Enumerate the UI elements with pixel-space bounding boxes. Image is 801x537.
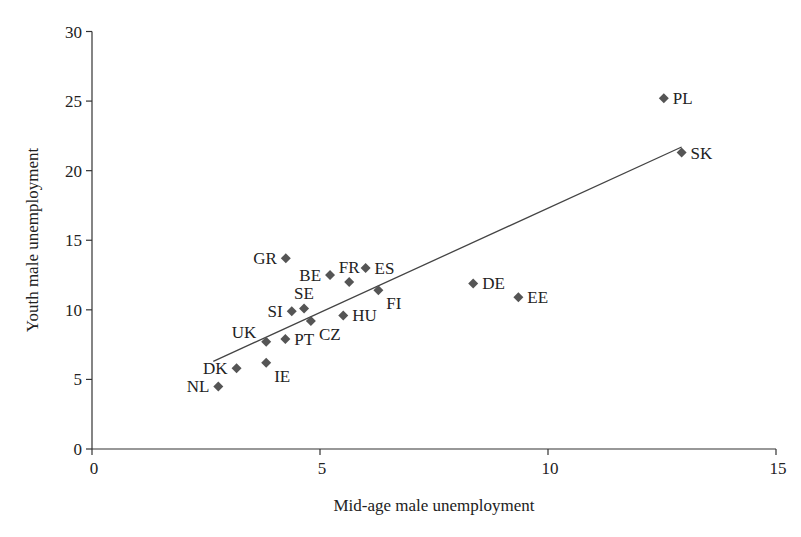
point-label: PL [673, 89, 693, 108]
y-tick-label: 25 [65, 92, 82, 111]
diamond-marker-icon [281, 253, 291, 263]
point-label: IE [274, 367, 290, 386]
data-point: PT [280, 330, 314, 349]
y-tick-label: 20 [65, 162, 82, 181]
x-ticks: 051015 [90, 449, 787, 478]
diamond-marker-icon [361, 263, 371, 273]
diamond-marker-icon [325, 270, 335, 280]
data-point: BE [299, 266, 335, 285]
data-point: ES [361, 259, 395, 278]
x-tick-label: 10 [542, 459, 559, 478]
point-label: BE [299, 266, 321, 285]
point-label: PT [294, 330, 314, 349]
data-point: HU [338, 306, 377, 325]
point-label: GR [253, 249, 277, 268]
x-axis-title: Mid-age male unemployment [333, 496, 534, 515]
data-point: SE [294, 284, 314, 313]
diamond-marker-icon [261, 358, 271, 368]
scatter-chart: 051015202530 051015 NLDKIEUKPTGRSISECZBE… [0, 0, 801, 537]
data-point: GR [253, 249, 291, 268]
point-label: DE [482, 274, 505, 293]
data-point: IE [261, 358, 290, 386]
data-points: NLDKIEUKPTGRSISECZBEHUFRESFIDEEESKPL [187, 89, 713, 396]
diamond-marker-icon [299, 303, 309, 313]
diamond-marker-icon [280, 334, 290, 344]
x-tick-label: 15 [770, 459, 787, 478]
regression-line [213, 147, 681, 361]
trendline [213, 147, 681, 361]
y-tick-label: 10 [65, 301, 82, 320]
data-point: EE [513, 288, 548, 307]
diamond-marker-icon [468, 278, 478, 288]
point-label: FI [386, 294, 401, 313]
x-tick-label: 5 [318, 459, 327, 478]
y-tick-label: 5 [74, 370, 83, 389]
y-tick-label: 30 [65, 23, 82, 42]
diamond-marker-icon [338, 310, 348, 320]
point-label: ES [375, 259, 395, 278]
data-point: DE [468, 274, 505, 293]
point-label: SK [691, 144, 713, 163]
point-label: DK [203, 359, 228, 378]
diamond-marker-icon [344, 277, 354, 287]
x-tick-label: 0 [90, 459, 99, 478]
data-point: DK [203, 359, 242, 378]
y-ticks: 051015202530 [65, 23, 92, 460]
point-label: UK [232, 323, 257, 342]
y-tick-label: 0 [74, 440, 83, 459]
diamond-marker-icon [659, 93, 669, 103]
data-point: FR [339, 258, 360, 287]
point-label: NL [187, 377, 210, 396]
diamond-marker-icon [513, 292, 523, 302]
point-label: HU [352, 306, 377, 325]
data-point: FI [373, 285, 401, 313]
data-point: PL [659, 89, 693, 108]
diamond-marker-icon [232, 363, 242, 373]
data-point: SK [677, 144, 713, 163]
diamond-marker-icon [287, 306, 297, 316]
point-label: EE [527, 288, 548, 307]
point-label: SE [294, 284, 314, 303]
point-label: SI [268, 302, 283, 321]
point-label: CZ [319, 325, 341, 344]
diamond-marker-icon [213, 381, 223, 391]
point-label: FR [339, 258, 360, 277]
data-point: NL [187, 377, 224, 396]
data-point: SI [268, 302, 297, 321]
diamond-marker-icon [306, 316, 316, 326]
y-tick-label: 15 [65, 231, 82, 250]
y-axis-title: Youth male unemployment [23, 148, 42, 333]
